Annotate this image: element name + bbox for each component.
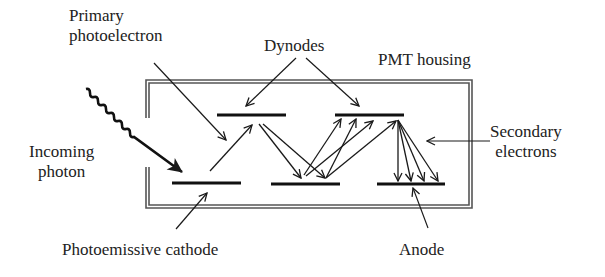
photoemissive-cathode-pointer bbox=[176, 193, 207, 229]
label-primary-photoelectron: Primary photoelectron bbox=[69, 6, 162, 46]
dynodes-pointer-right bbox=[306, 58, 359, 106]
dynodes-pointer-left bbox=[246, 58, 296, 106]
label-pmt-housing: PMT housing bbox=[378, 50, 471, 70]
label-incoming-line1: Incoming bbox=[29, 142, 94, 162]
electron-paths bbox=[210, 119, 438, 181]
label-incoming-photon: Incoming photon bbox=[29, 142, 94, 182]
label-secondary-line2: electrons bbox=[490, 142, 562, 162]
label-dynodes: Dynodes bbox=[264, 36, 324, 56]
label-primary-line2: photoelectron bbox=[69, 26, 162, 46]
label-primary-line1: Primary bbox=[69, 6, 162, 26]
primary-photoelectron-pointer bbox=[154, 63, 226, 140]
label-secondary-electrons: Secondary electrons bbox=[490, 122, 562, 162]
pmt-housing bbox=[146, 80, 472, 208]
label-anode: Anode bbox=[399, 240, 444, 260]
label-incoming-line2: photon bbox=[29, 162, 94, 182]
incoming-photon-wave-icon bbox=[86, 89, 182, 172]
label-secondary-line1: Secondary bbox=[490, 122, 562, 142]
label-photoemissive-cathode: Photoemissive cathode bbox=[62, 240, 218, 260]
